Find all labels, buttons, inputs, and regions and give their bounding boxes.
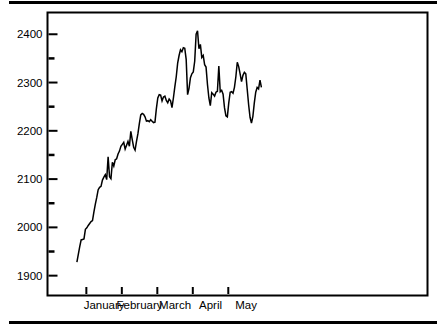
y-axis-tick-label: 2000 (17, 221, 43, 233)
x-axis-tick-label: March (159, 299, 191, 311)
x-axis-tick-labels: JanuaryFebruaryMarchAprilMay (84, 299, 258, 311)
plot-frame (48, 13, 428, 296)
y-axis-tick-label: 2300 (17, 77, 43, 89)
y-axis-tick-label: 2400 (17, 28, 43, 40)
plot-border (48, 13, 428, 296)
y-axis-tick-labels: 190020002100220023002400 (17, 28, 43, 281)
line-chart: 190020002100220023002400 JanuaryFebruary… (0, 0, 444, 334)
x-axis-tick-label: May (235, 299, 257, 311)
y-axis-tick-label: 1900 (17, 270, 43, 282)
y-axis-tick-label: 2100 (17, 173, 43, 185)
x-axis-tick-label: April (199, 299, 222, 311)
y-axis-tick-label: 2200 (17, 125, 43, 137)
figure-container: 190020002100220023002400 JanuaryFebruary… (0, 0, 444, 334)
x-axis-tick-label: February (117, 299, 163, 311)
